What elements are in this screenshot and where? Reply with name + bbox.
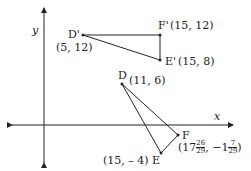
- label-d-prime: D': [68, 29, 80, 40]
- y-axis-label: y: [32, 25, 38, 36]
- coord-e-prime: (15, 8): [178, 56, 215, 67]
- label-e-prime: E': [165, 56, 176, 67]
- label-f-prime: F': [158, 20, 169, 31]
- coord-f-prime: (15, 12): [170, 20, 214, 31]
- coord-f: (172629, −1729): [178, 140, 242, 155]
- coord-d-prime: (5, 12): [56, 42, 93, 53]
- x-axis-label: x: [214, 111, 220, 122]
- point-f-prime: [159, 34, 162, 37]
- label-d: D: [118, 70, 127, 81]
- coord-d: (11, 6): [129, 75, 166, 86]
- triangle-d-e-f: [122, 84, 178, 153]
- point-d-prime: [82, 34, 85, 37]
- point-e-prime: [159, 59, 162, 62]
- triangle-d-e-f-prime: [83, 35, 160, 60]
- point-f: [177, 134, 180, 137]
- label-e: E: [152, 155, 160, 166]
- coord-e: (15, – 4): [103, 155, 149, 166]
- point-d: [121, 83, 124, 86]
